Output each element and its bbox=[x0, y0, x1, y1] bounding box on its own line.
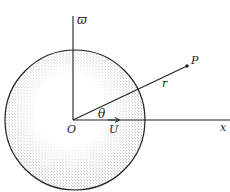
horizontal-axis-label: x bbox=[220, 121, 227, 134]
radius-label: r bbox=[162, 77, 168, 90]
point-p-marker bbox=[185, 64, 189, 68]
velocity-label: U bbox=[109, 123, 119, 136]
origin-label: O bbox=[67, 123, 76, 136]
vertical-axis-label: ϖ bbox=[77, 13, 88, 27]
flow-past-sphere-diagram: ϖ x O P r θ U bbox=[0, 0, 230, 192]
point-label: P bbox=[190, 54, 199, 67]
angle-label: θ bbox=[98, 107, 106, 121]
